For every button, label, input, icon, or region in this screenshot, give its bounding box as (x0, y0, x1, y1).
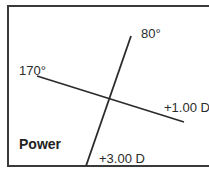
meridian-80-line (86, 36, 131, 166)
angle-label-170: 170° (19, 64, 46, 77)
meridian-170-line (37, 76, 184, 122)
angle-label-80: 80° (141, 27, 161, 40)
diagram-title: Power (19, 137, 61, 151)
power-label-3: +3.00 D (99, 152, 145, 165)
power-label-1: +1.00 D (164, 101, 209, 114)
